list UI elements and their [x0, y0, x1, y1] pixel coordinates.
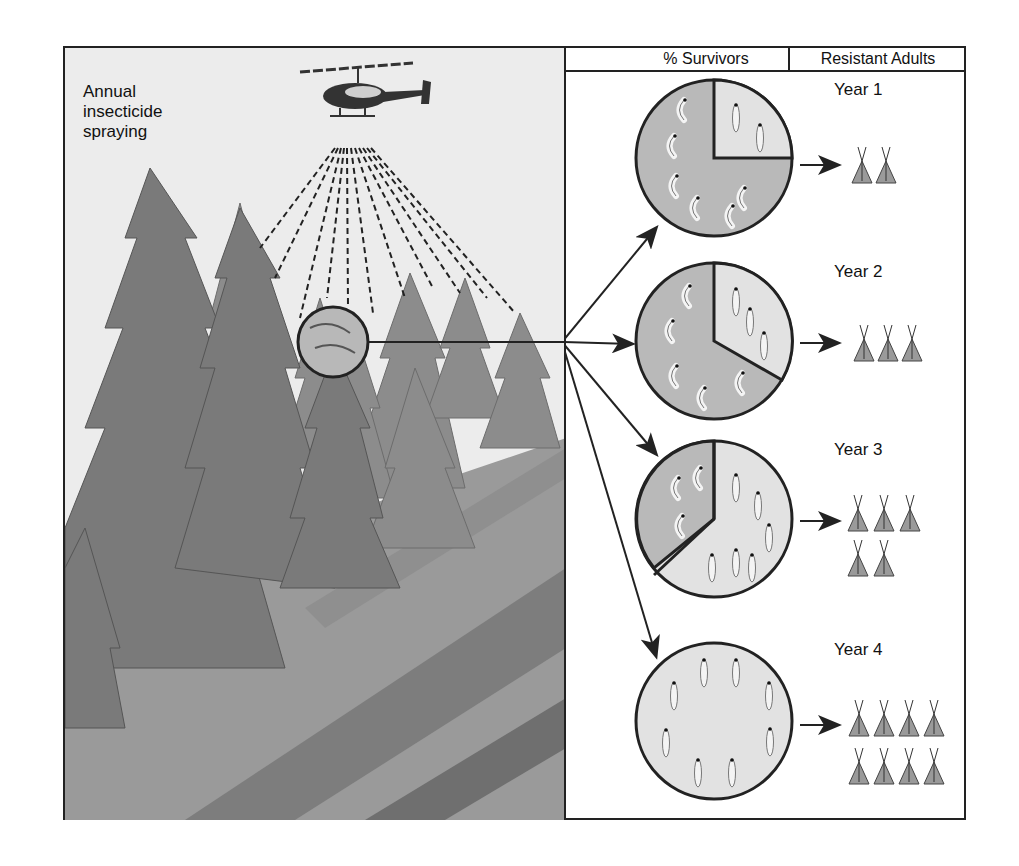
label-line-2: insecticide	[83, 102, 162, 122]
forest-illustration	[65, 48, 566, 820]
pie-year-2	[636, 263, 922, 419]
year-1-label: Year 1	[834, 80, 883, 100]
label-line-1: Annual	[83, 82, 162, 102]
pie-year-4	[636, 643, 944, 799]
helicopter-icon	[300, 63, 431, 116]
label-line-3: spraying	[83, 122, 162, 142]
diagram-frame: Annual insecticide spraying % Survivors …	[63, 46, 966, 820]
forest-scene: Annual insecticide spraying	[65, 48, 566, 820]
pie-year-3	[636, 441, 920, 597]
survivor-panel	[564, 48, 966, 820]
pie-year-1	[636, 80, 896, 236]
scene-label: Annual insecticide spraying	[83, 82, 162, 142]
year-3-label: Year 3	[834, 440, 883, 460]
year-2-label: Year 2	[834, 262, 883, 282]
magnifier-circle	[298, 307, 368, 377]
year-4-label: Year 4	[834, 640, 883, 660]
